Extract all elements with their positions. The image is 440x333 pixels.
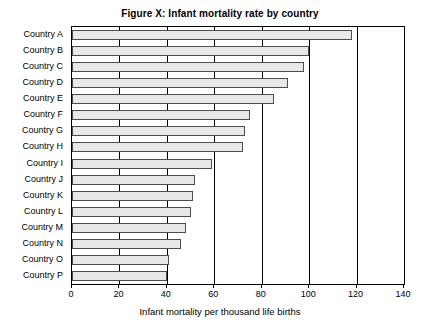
bar bbox=[72, 94, 274, 104]
x-tick-label: 0 bbox=[68, 289, 73, 299]
x-tick-label: 40 bbox=[161, 289, 171, 299]
bar-row bbox=[72, 78, 404, 88]
x-tick-label: 140 bbox=[395, 289, 410, 299]
bar-series bbox=[72, 27, 404, 284]
x-tick-mark bbox=[261, 285, 262, 288]
bar-row bbox=[72, 62, 404, 72]
y-axis-label: Country B bbox=[23, 45, 63, 55]
y-axis-label: Country N bbox=[22, 238, 63, 248]
x-tick-mark bbox=[166, 285, 167, 288]
y-axis-label: Country L bbox=[24, 206, 63, 216]
bar-row bbox=[72, 271, 404, 281]
x-tick-label: 80 bbox=[256, 289, 266, 299]
y-axis-label: Country K bbox=[23, 190, 63, 200]
x-tick-mark bbox=[118, 285, 119, 288]
x-tick-mark bbox=[308, 285, 309, 288]
y-axis-label: Country A bbox=[23, 29, 63, 39]
bar-row bbox=[72, 30, 404, 40]
bar bbox=[72, 110, 250, 120]
chart-title: Figure X: Infant mortality rate by count… bbox=[0, 8, 440, 19]
plot-area bbox=[71, 26, 405, 285]
x-tick-mark bbox=[356, 285, 357, 288]
x-tick-mark bbox=[71, 285, 72, 288]
bar bbox=[72, 126, 245, 136]
x-tick-label: 60 bbox=[208, 289, 218, 299]
bar-row bbox=[72, 175, 404, 185]
y-axis-label: Country M bbox=[21, 222, 63, 232]
bar bbox=[72, 159, 212, 169]
x-tick-label: 100 bbox=[301, 289, 316, 299]
y-axis-label: Country I bbox=[26, 158, 63, 168]
bar bbox=[72, 46, 309, 56]
bar bbox=[72, 255, 169, 265]
bar bbox=[72, 30, 352, 40]
bar-row bbox=[72, 46, 404, 56]
bar-row bbox=[72, 110, 404, 120]
y-axis-label: Country G bbox=[22, 125, 63, 135]
bar bbox=[72, 78, 288, 88]
bar-row bbox=[72, 191, 404, 201]
bar-row bbox=[72, 255, 404, 265]
bar bbox=[72, 142, 243, 152]
bar-row bbox=[72, 94, 404, 104]
bar-row bbox=[72, 239, 404, 249]
bar-row bbox=[72, 159, 404, 169]
bar-row bbox=[72, 142, 404, 152]
x-tick-mark bbox=[403, 285, 404, 288]
y-axis-label: Country O bbox=[22, 254, 63, 264]
x-axis-title: Infant mortality per thousand life birth… bbox=[0, 306, 440, 317]
y-axis-label: Country F bbox=[23, 109, 63, 119]
y-axis-label: Country J bbox=[24, 174, 63, 184]
y-axis-label: Country D bbox=[22, 77, 63, 87]
bar bbox=[72, 62, 304, 72]
bar bbox=[72, 191, 193, 201]
chart-container: Figure X: Infant mortality rate by count… bbox=[0, 0, 440, 333]
y-axis-category-labels: Country ACountry BCountry CCountry DCoun… bbox=[0, 26, 67, 285]
bar bbox=[72, 223, 186, 233]
y-axis-label: Country P bbox=[23, 270, 63, 280]
bar bbox=[72, 271, 167, 281]
bar-row bbox=[72, 223, 404, 233]
y-axis-label: Country H bbox=[22, 141, 63, 151]
bar bbox=[72, 207, 191, 217]
y-axis-label: Country C bbox=[22, 61, 63, 71]
bar bbox=[72, 175, 195, 185]
x-tick-label: 120 bbox=[348, 289, 363, 299]
y-axis-label: Country E bbox=[23, 93, 63, 103]
bar-row bbox=[72, 126, 404, 136]
x-tick-label: 20 bbox=[113, 289, 123, 299]
x-axis-ticks: 020406080100120140 bbox=[71, 285, 405, 301]
bar-row bbox=[72, 207, 404, 217]
x-tick-mark bbox=[213, 285, 214, 288]
bar bbox=[72, 239, 181, 249]
